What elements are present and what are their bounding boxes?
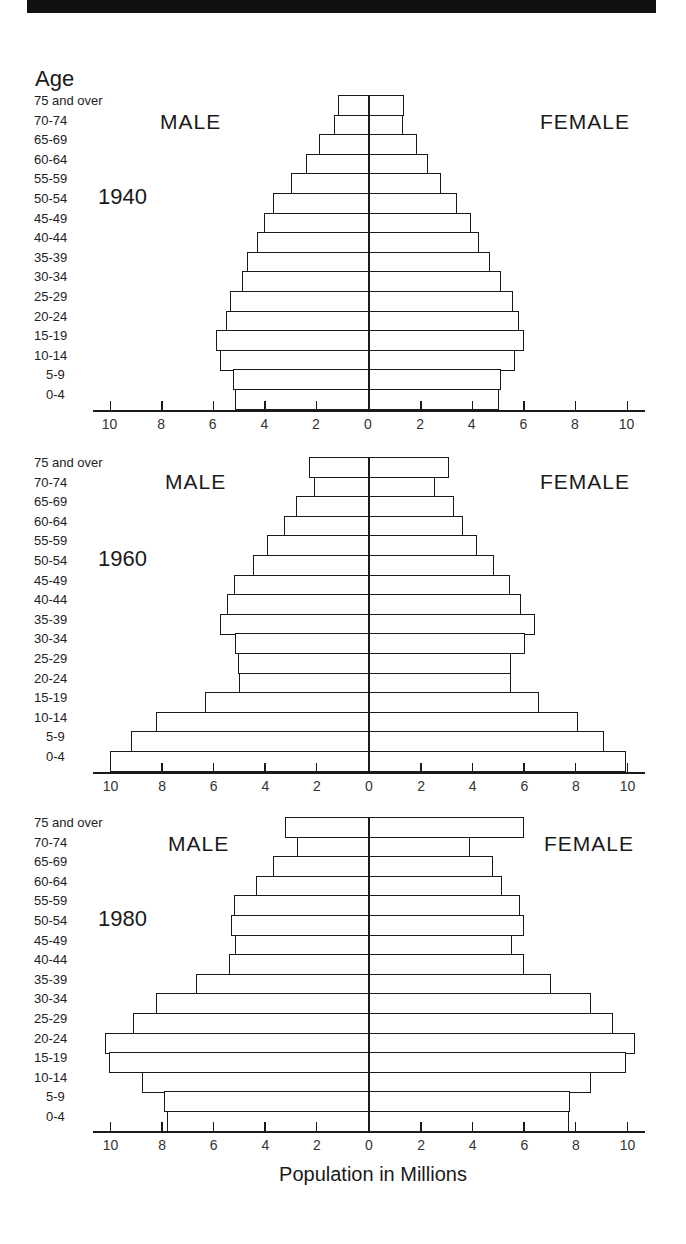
- female-bar: [368, 712, 578, 733]
- x-axis-label: Population in Millions: [0, 1163, 686, 1186]
- female-bar: [368, 614, 535, 635]
- female-bar: [368, 516, 463, 537]
- female-bar: [368, 993, 591, 1014]
- age-label: 75 and over: [34, 456, 103, 470]
- age-label: 5-9: [46, 1090, 65, 1104]
- age-label: 75 and over: [34, 94, 103, 108]
- x-axis-tick: [368, 1122, 370, 1131]
- age-label: 50-54: [34, 192, 67, 206]
- age-label: 50-54: [34, 554, 67, 568]
- female-bar: [368, 1111, 569, 1132]
- female-bar: [368, 213, 471, 234]
- x-tick-label: 8: [572, 1137, 580, 1153]
- age-label: 40-44: [34, 231, 67, 245]
- female-bar: [368, 173, 441, 194]
- x-axis-tick: [316, 1122, 318, 1131]
- age-label: 20-24: [34, 310, 67, 324]
- x-tick-label: 2: [313, 778, 321, 794]
- age-label: 40-44: [34, 593, 67, 607]
- male-bar: [267, 535, 369, 556]
- male-bar: [247, 252, 369, 273]
- x-axis-tick: [472, 763, 474, 772]
- x-tick-label: 8: [571, 416, 579, 432]
- x-axis-tick: [420, 1122, 422, 1131]
- male-bar: [253, 555, 369, 576]
- age-label: 70-74: [34, 114, 67, 128]
- x-tick-label: 0: [364, 416, 372, 432]
- age-label: 10-14: [34, 1071, 67, 1085]
- female-bar: [368, 954, 524, 975]
- x-axis-tick: [110, 763, 112, 772]
- male-bar: [284, 516, 369, 537]
- age-label: 0-4: [46, 388, 65, 402]
- age-label: 10-14: [34, 349, 67, 363]
- age-label: 30-34: [34, 270, 67, 284]
- x-axis-tick: [627, 1122, 629, 1131]
- female-bar: [368, 350, 515, 371]
- x-axis-tick: [110, 401, 112, 410]
- age-label: 5-9: [46, 368, 65, 382]
- age-label: 45-49: [34, 574, 67, 588]
- male-bar: [229, 954, 369, 975]
- female-bar: [368, 389, 499, 410]
- male-bar: [239, 673, 369, 694]
- female-bar: [368, 915, 524, 936]
- x-tick-label: 4: [469, 1137, 477, 1153]
- male-bar: [105, 1033, 369, 1054]
- x-tick-label: 0: [365, 1137, 373, 1153]
- x-axis-tick: [213, 763, 215, 772]
- age-label: 65-69: [34, 855, 67, 869]
- female-bar: [368, 1091, 570, 1112]
- female-bar: [368, 575, 510, 596]
- female-bar: [368, 311, 519, 332]
- male-bar: [216, 330, 369, 351]
- x-axis-tick: [264, 763, 266, 772]
- year-label: 1940: [98, 184, 147, 210]
- female-bar: [368, 876, 502, 897]
- female-bar: [368, 692, 539, 713]
- age-label: 0-4: [46, 1110, 65, 1124]
- female-bar: [368, 653, 511, 674]
- male-bar: [334, 115, 369, 136]
- x-tick-label: 6: [210, 1137, 218, 1153]
- female-bar: [368, 535, 477, 556]
- age-axis-title: Age: [35, 66, 74, 92]
- age-label: 0-4: [46, 750, 65, 764]
- female-bar: [368, 369, 501, 390]
- age-label: 20-24: [34, 1032, 67, 1046]
- male-bar: [156, 712, 369, 733]
- age-label: 60-64: [34, 515, 67, 529]
- x-axis-tick: [264, 401, 266, 410]
- age-label: 25-29: [34, 1012, 67, 1026]
- female-bar: [368, 477, 435, 498]
- x-axis-tick: [472, 1122, 474, 1131]
- female-bar: [368, 134, 417, 155]
- female-bar: [368, 115, 403, 136]
- female-bar: [368, 974, 551, 995]
- male-bar: [164, 1091, 369, 1112]
- x-tick-label: 2: [313, 1137, 321, 1153]
- x-tick-label: 8: [158, 1137, 166, 1153]
- x-tick-label: 6: [209, 416, 217, 432]
- male-bar: [264, 213, 369, 234]
- male-bar: [273, 193, 369, 214]
- female-bar: [368, 555, 494, 576]
- female-label: FEMALE: [540, 470, 630, 494]
- x-tick-label: 10: [619, 416, 635, 432]
- age-label: 55-59: [34, 172, 67, 186]
- female-bar: [368, 457, 449, 478]
- x-tick-label: 4: [469, 778, 477, 794]
- x-axis-tick: [472, 401, 474, 410]
- age-label: 45-49: [34, 212, 67, 226]
- male-bar: [167, 1111, 369, 1132]
- x-axis-tick: [316, 401, 318, 410]
- age-label: 30-34: [34, 632, 67, 646]
- x-axis-line: [93, 772, 645, 774]
- x-tick-label: 10: [620, 1137, 636, 1153]
- x-axis-tick: [213, 1122, 215, 1131]
- female-bar: [368, 1072, 591, 1093]
- male-bar: [196, 974, 369, 995]
- male-bar: [306, 154, 369, 175]
- x-tick-label: 2: [312, 416, 320, 432]
- age-label: 40-44: [34, 953, 67, 967]
